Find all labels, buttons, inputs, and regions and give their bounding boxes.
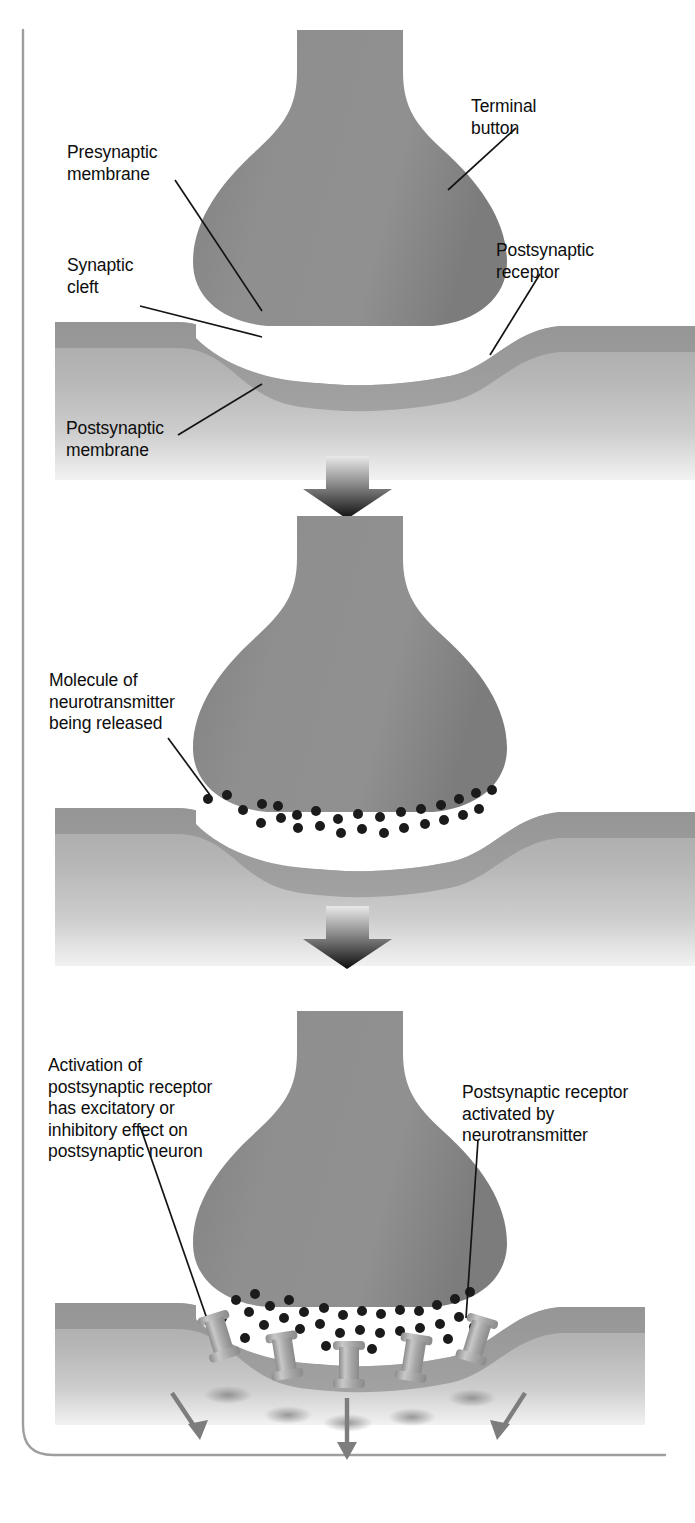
synapse-figure: Presynaptic membrane Synaptic cleft Post…: [0, 0, 695, 1523]
label-postsynaptic-receptor: Postsynaptic receptor: [496, 240, 594, 283]
label-presynaptic-membrane: Presynaptic membrane: [67, 142, 157, 185]
panel-2-neurotransmitter-release: [55, 516, 695, 966]
receptor-shadow: [264, 1406, 312, 1424]
terminal-button-3: [193, 1011, 507, 1307]
figure-canvas: [0, 0, 695, 1523]
label-receptor-activated: Postsynaptic receptor activated by neuro…: [462, 1082, 628, 1147]
label-molecule-of-neurotransmitter: Molecule of neurotransmitter being relea…: [49, 670, 175, 735]
receptor-shadow: [388, 1408, 436, 1426]
terminal-button-2: [193, 516, 507, 812]
label-terminal-button: Terminal button: [471, 96, 536, 139]
label-activation-effect: Activation of postsynaptic receptor has …: [48, 1055, 212, 1163]
receptor-shadow: [204, 1386, 252, 1404]
panel-1-resting-synapse: [55, 30, 695, 480]
receptor-shadow: [448, 1389, 496, 1407]
label-synaptic-cleft: Synaptic cleft: [67, 255, 133, 298]
label-postsynaptic-membrane: Postsynaptic membrane: [66, 418, 164, 461]
receptor-3: [333, 1341, 365, 1388]
